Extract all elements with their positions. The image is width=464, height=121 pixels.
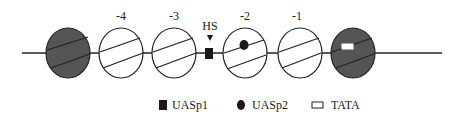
legend-tata-icon [312,102,323,108]
nucleosome-right-dark [331,28,375,78]
label-minus3: -3 [169,9,179,23]
uasp1-marker [205,48,213,59]
nucleosome-minus1 [278,28,322,78]
uasp2-marker [240,40,249,50]
nucleosome-minus2 [223,28,267,78]
label-minus4: -4 [116,9,126,23]
hs-arrow-icon [207,35,213,41]
legend-uasp1-icon [159,100,167,110]
nucleosome-minus4 [99,28,143,78]
nucleosome-minus3 [152,28,196,78]
label-minus1: -1 [292,9,302,23]
legend-uasp2-icon [237,100,245,110]
legend-uasp2-label: UASp2 [252,98,288,112]
label-hs: HS [202,19,217,33]
legend: UASp1 UASp2 TATA [159,98,360,112]
tata-marker [342,44,353,49]
label-minus2: -2 [240,9,250,23]
legend-tata-label: TATA [331,98,360,112]
nucleosome-diagram: -4 -3 HS -2 -1 UASp1 UASp2 TATA [0,0,464,121]
legend-uasp1-label: UASp1 [172,98,208,112]
nucleosome-left-dark [46,28,90,78]
